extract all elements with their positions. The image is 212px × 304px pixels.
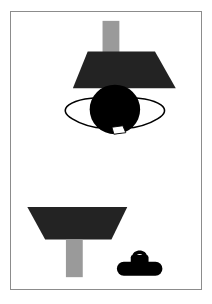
top-lamp-group bbox=[73, 21, 176, 88]
top-dark-trapezoid bbox=[73, 52, 176, 89]
black-bag-silhouette bbox=[117, 251, 163, 276]
bottom-gray-post bbox=[66, 240, 83, 278]
caption-strip bbox=[10, 292, 202, 304]
white-notch bbox=[112, 126, 126, 134]
center-disc-group bbox=[65, 85, 164, 134]
figure-canvas bbox=[11, 12, 201, 289]
top-gray-post bbox=[103, 21, 120, 55]
figure-frame bbox=[10, 11, 202, 290]
bag-base-bar bbox=[117, 262, 163, 276]
figure-page bbox=[0, 0, 212, 304]
bottom-dark-trapezoid bbox=[27, 207, 127, 240]
bottom-lamp-group bbox=[27, 207, 127, 277]
